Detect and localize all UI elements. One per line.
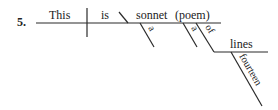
appositive-word: (poem) [175, 8, 210, 22]
verb-word: is [101, 8, 109, 22]
item-number: 5. [17, 15, 26, 29]
sentence-diagram: 5. This is sonnet (poem) a a of lines fo… [0, 0, 278, 110]
subject-word: This [49, 8, 71, 22]
predicate-nominative-slash [119, 12, 128, 23]
preposition-word: of [203, 22, 217, 35]
object-word: lines [230, 37, 253, 51]
modifier-1-word: a [146, 24, 158, 34]
predicate-nominative-word: sonnet [136, 8, 168, 22]
